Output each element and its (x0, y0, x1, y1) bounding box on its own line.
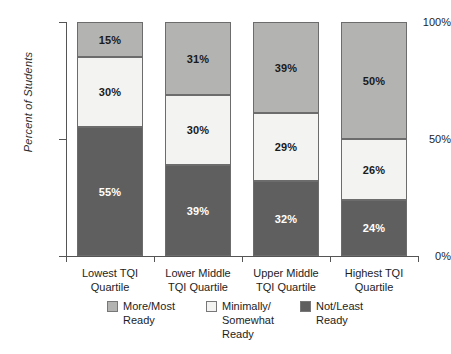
legend-label: More/Most Ready (123, 299, 175, 327)
bar-segment-more-most-ready[interactable]: 50% (341, 22, 407, 139)
legend-swatch-icon (206, 301, 217, 312)
bar-segment-label: 50% (363, 75, 386, 87)
y-tick-mark-50 (59, 139, 66, 140)
bar-segment-label: 39% (275, 62, 298, 74)
bar-group-highest-tqi-quartile[interactable]: 50% 26% 24% (341, 22, 407, 256)
bar-segment-minimally-somewhat-ready[interactable]: 30% (77, 57, 143, 127)
x-category-line1: Highest TQI (319, 266, 429, 280)
bar-segment-not-least-ready[interactable]: 32% (253, 181, 319, 256)
bar-segment-minimally-somewhat-ready[interactable]: 29% (253, 113, 319, 181)
bar-segment-not-least-ready[interactable]: 55% (77, 127, 143, 256)
y-tick-label-100: 100% (405, 16, 451, 28)
x-category-line2: Quartile (319, 280, 429, 294)
y-axis-title: Percent of Students (22, 12, 34, 192)
y-tick-label-50: 50% (405, 133, 451, 145)
legend-item-not-least-ready[interactable]: Not/Least Ready (300, 299, 363, 327)
bar-segment-label: 39% (187, 205, 210, 217)
bar-group-lower-middle-tqi-quartile[interactable]: 31% 30% 39% (165, 22, 231, 256)
bar-segment-label: 15% (99, 34, 122, 46)
bar-group-lowest-tqi-quartile[interactable]: 15% 30% 55% (77, 22, 143, 256)
legend-item-minimally-somewhat-ready[interactable]: Minimally/ Somewhat Ready (206, 299, 274, 341)
bar-segment-label: 24% (363, 222, 386, 234)
y-tick-mark-100 (59, 22, 66, 23)
bar-segment-label: 30% (187, 124, 210, 136)
legend-label: Minimally/ Somewhat Ready (222, 299, 274, 341)
x-category-label-3: Highest TQI Quartile (319, 266, 429, 294)
bar-segment-label: 32% (275, 213, 298, 225)
x-tick-mark-2 (242, 256, 243, 262)
chart-legend: More/Most Ready Minimally/ Somewhat Read… (0, 299, 451, 354)
bar-group-upper-middle-tqi-quartile[interactable]: 39% 29% 32% (253, 22, 319, 256)
bar-segment-more-most-ready[interactable]: 15% (77, 22, 143, 57)
legend-swatch-icon (300, 301, 311, 312)
bar-segment-label: 55% (99, 186, 122, 198)
legend-swatch-icon (107, 301, 118, 312)
legend-label: Not/Least Ready (316, 299, 363, 327)
y-tick-mark-0 (59, 256, 66, 257)
bar-segment-label: 31% (187, 53, 210, 65)
bar-segment-label: 30% (99, 86, 122, 98)
bar-segment-label: 26% (363, 164, 386, 176)
x-tick-mark-0 (66, 256, 67, 262)
bar-segment-not-least-ready[interactable]: 24% (341, 200, 407, 256)
y-axis-line (66, 22, 67, 256)
x-tick-mark-1 (154, 256, 155, 262)
bar-segment-minimally-somewhat-ready[interactable]: 26% (341, 139, 407, 200)
bar-segment-not-least-ready[interactable]: 39% (165, 165, 231, 256)
bar-segment-label: 29% (275, 141, 298, 153)
bar-segment-more-most-ready[interactable]: 39% (253, 22, 319, 113)
bar-segment-minimally-somewhat-ready[interactable]: 30% (165, 95, 231, 165)
x-tick-mark-4 (418, 256, 419, 262)
legend-item-more-most-ready[interactable]: More/Most Ready (107, 299, 175, 327)
chart-figure: Percent of Students 100% 50% 0% 15% 30% … (0, 0, 451, 354)
x-tick-mark-3 (330, 256, 331, 262)
bar-segment-more-most-ready[interactable]: 31% (165, 22, 231, 95)
